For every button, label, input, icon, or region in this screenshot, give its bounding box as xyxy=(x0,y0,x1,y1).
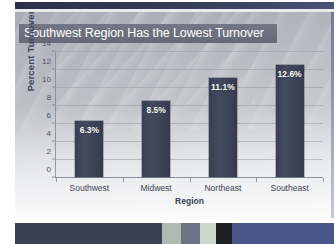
x-axis-tick-mark xyxy=(123,178,124,182)
bar-data-label: 8.5% xyxy=(146,105,165,115)
slide-title: Southwest Region Has the Lowest Turnover xyxy=(24,27,264,40)
y-axis-tick-label: 2 xyxy=(47,147,51,156)
x-axis-category-labels: SouthwestMidwestNortheastSoutheast xyxy=(56,183,323,193)
segment-slate xyxy=(181,223,200,244)
segment-pale-green xyxy=(200,223,216,244)
bar-northeast[interactable]: 11.1% xyxy=(209,78,237,177)
bar-series: 6.3%8.5%11.1%12.6% xyxy=(56,52,323,177)
bar-chart: Percent Turnover 02468101214 6.3%8.5%11.… xyxy=(19,48,330,216)
segment-navy xyxy=(15,223,162,244)
segment-blue xyxy=(232,223,334,244)
slide-top-accent-band xyxy=(15,2,334,9)
x-axis-label: Region xyxy=(56,196,323,206)
x-axis-tick-mark xyxy=(190,178,191,182)
y-axis-tick-mark xyxy=(52,123,55,124)
slide-photo-screenshot: Southwest Region Has the Lowest Turnover… xyxy=(0,0,334,244)
bar-data-label: 6.3% xyxy=(80,125,99,135)
segment-black xyxy=(216,223,232,244)
y-axis-tick-mark xyxy=(52,177,55,178)
y-axis-tick-label: 8 xyxy=(47,93,51,102)
bar-slot: 6.3% xyxy=(56,52,123,177)
y-axis-tick-mark xyxy=(52,159,55,160)
y-axis-tick-label: 4 xyxy=(47,129,51,138)
bottom-color-strip xyxy=(15,223,334,244)
y-axis-tick-mark xyxy=(52,105,55,106)
y-axis-tick-label: 14 xyxy=(42,39,51,48)
bar-slot: 12.6% xyxy=(256,52,323,177)
bar-midwest[interactable]: 8.5% xyxy=(142,101,170,177)
bar-slot: 11.1% xyxy=(190,52,257,177)
y-axis-label-container: Percent Turnover xyxy=(19,58,33,178)
bar-southeast[interactable]: 12.6% xyxy=(276,65,304,178)
y-axis-tick-label: 6 xyxy=(47,111,51,120)
x-axis-category-southeast: Southeast xyxy=(256,183,323,193)
y-axis-tick-label: 12 xyxy=(42,57,51,66)
bar-southwest[interactable]: 6.3% xyxy=(75,121,103,177)
y-axis-tick-mark xyxy=(52,141,55,142)
x-axis-tick-mark xyxy=(323,178,324,182)
x-axis-category-southwest: Southwest xyxy=(56,183,123,193)
bar-data-label: 12.6% xyxy=(278,69,302,79)
bar-slot: 8.5% xyxy=(123,52,190,177)
y-axis-tick-label: 10 xyxy=(42,75,51,84)
y-axis-tick-mark xyxy=(52,87,55,88)
presentation-slide: Southwest Region Has the Lowest Turnover… xyxy=(15,12,334,218)
x-axis-tick-mark xyxy=(56,178,57,182)
y-axis-tick-mark xyxy=(52,69,55,70)
y-axis-tick-label: 0 xyxy=(47,165,51,174)
slide-title-band: Southwest Region Has the Lowest Turnover xyxy=(19,24,277,43)
x-axis-category-northeast: Northeast xyxy=(190,183,257,193)
y-axis-label: Percent Turnover xyxy=(25,12,37,94)
x-axis-category-midwest: Midwest xyxy=(123,183,190,193)
segment-sage xyxy=(162,223,181,244)
plot-area: 02468101214 6.3%8.5%11.1%12.6% xyxy=(55,52,323,178)
x-axis-tick-mark xyxy=(256,178,257,182)
y-axis-tick-mark xyxy=(52,51,55,52)
bar-data-label: 11.1% xyxy=(211,82,235,92)
photo-left-margin xyxy=(0,0,15,244)
